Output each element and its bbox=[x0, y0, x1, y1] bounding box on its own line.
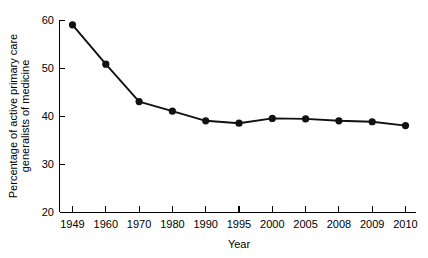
x-tick-label-1980: 1980 bbox=[160, 218, 184, 230]
data-point-2008 bbox=[335, 117, 342, 124]
y-axis-label-line2: generalists of medicine bbox=[19, 60, 31, 173]
y-tick-label-40: 40 bbox=[42, 110, 54, 122]
y-axis-label-line1: Percentage of active primary care bbox=[7, 34, 19, 198]
x-tick-label-1990: 1990 bbox=[193, 218, 217, 230]
x-tick-label-2000: 2000 bbox=[260, 218, 284, 230]
data-point-2009 bbox=[369, 118, 376, 125]
x-tick-label-1949: 1949 bbox=[60, 218, 84, 230]
data-point-1990 bbox=[202, 117, 209, 124]
y-tick-label-50: 50 bbox=[42, 62, 54, 74]
x-tick-label-2005: 2005 bbox=[293, 218, 317, 230]
x-tick-label-2008: 2008 bbox=[327, 218, 351, 230]
y-tick-label-60: 60 bbox=[42, 14, 54, 26]
x-axis-label: Year bbox=[228, 238, 251, 250]
series-markers bbox=[69, 21, 409, 129]
data-point-1970 bbox=[136, 98, 143, 105]
x-tick-label-1970: 1970 bbox=[127, 218, 151, 230]
chart-figure: Percentage of active primary care genera… bbox=[0, 0, 428, 258]
data-point-1949 bbox=[69, 21, 76, 28]
x-tick-label-2009: 2009 bbox=[360, 218, 384, 230]
data-point-2000 bbox=[269, 115, 276, 122]
data-point-1995 bbox=[235, 120, 242, 127]
data-point-2010 bbox=[402, 122, 409, 129]
x-tick-label-1995: 1995 bbox=[227, 218, 251, 230]
data-point-1960 bbox=[102, 61, 109, 68]
series-line bbox=[73, 25, 406, 126]
x-tick-label-1960: 1960 bbox=[94, 218, 118, 230]
x-tick-label-2010: 2010 bbox=[393, 218, 417, 230]
line-chart: Percentage of active primary care genera… bbox=[0, 0, 428, 258]
y-tick-label-30: 30 bbox=[42, 158, 54, 170]
data-point-1980 bbox=[169, 108, 176, 115]
y-tick-label-20: 20 bbox=[42, 206, 54, 218]
data-point-2005 bbox=[302, 115, 309, 122]
